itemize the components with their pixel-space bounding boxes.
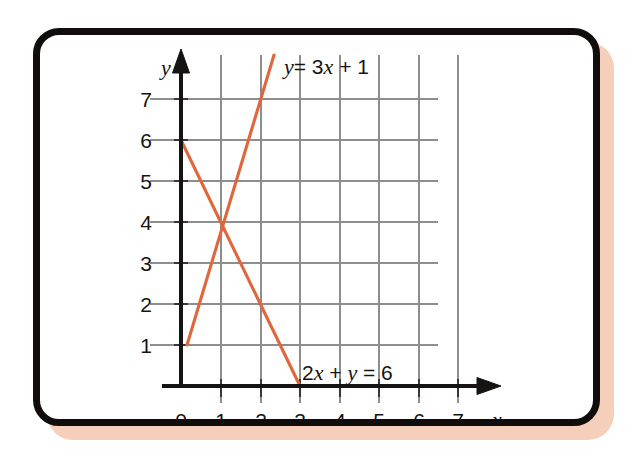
xtick-label-7: 7 xyxy=(444,410,472,426)
figure-root: 7 6 5 4 3 2 1 0 1 2 3 4 5 6 7 y x y= 3x … xyxy=(0,0,643,456)
xtick-label-3: 3 xyxy=(286,410,314,426)
ytick-label-7: 7 xyxy=(124,89,152,110)
equation-2-var-x: x xyxy=(314,360,324,385)
xtick-label-5: 5 xyxy=(365,410,393,426)
equation-2-plus: + xyxy=(329,361,341,384)
equation-1-var-y: y xyxy=(284,54,294,79)
ytick-label-6: 6 xyxy=(124,130,152,151)
xtick-label-0: 0 xyxy=(167,410,195,426)
xtick-label-2: 2 xyxy=(247,410,275,426)
equation-2-var-y: y xyxy=(347,360,357,385)
equation-label-line-2: 2x + y = 6 xyxy=(302,362,393,384)
xtick-label-6: 6 xyxy=(405,410,433,426)
graph-card-frame: 7 6 5 4 3 2 1 0 1 2 3 4 5 6 7 y x y= 3x … xyxy=(33,28,600,426)
ytick-label-3: 3 xyxy=(124,253,152,274)
data-lines xyxy=(181,55,300,386)
x-axis-label: x xyxy=(492,409,502,426)
grid-lines xyxy=(150,55,458,403)
ytick-label-4: 4 xyxy=(124,212,152,233)
ytick-label-1: 1 xyxy=(124,335,152,356)
equation-1-var-x: x xyxy=(324,54,334,79)
ytick-label-5: 5 xyxy=(124,171,152,192)
xtick-label-4: 4 xyxy=(326,410,354,426)
equation-2-num-2: 2 xyxy=(302,361,314,384)
x-axis-arrowhead xyxy=(477,378,501,395)
plot-area: 7 6 5 4 3 2 1 0 1 2 3 4 5 6 7 y x y= 3x … xyxy=(40,35,593,419)
y-axis-label: y xyxy=(161,57,171,79)
equation-2-eq-6: = 6 xyxy=(363,361,393,384)
equation-1-eq-3: = 3 xyxy=(294,55,324,78)
y-axis-arrowhead xyxy=(173,49,190,73)
xtick-label-1: 1 xyxy=(207,410,235,426)
ytick-label-2: 2 xyxy=(124,294,152,315)
equation-label-line-1: y= 3x + 1 xyxy=(284,56,369,78)
equation-1-plus-1: + 1 xyxy=(339,55,369,78)
